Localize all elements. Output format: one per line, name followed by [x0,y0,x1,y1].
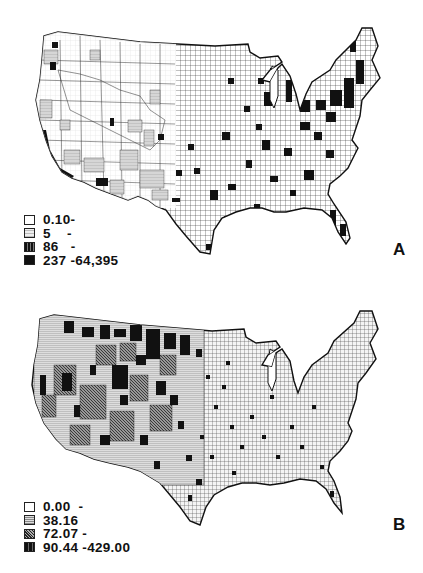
panel-label-a: A [393,240,405,260]
panel-label-b: B [393,515,405,535]
legend-item: 0.10- [24,213,118,227]
legend-swatch-light-stipple [24,228,35,238]
legend-label: 0.00 - [43,500,83,513]
legend-swatch-black [24,255,35,265]
legend-item: 237 -64,395 [24,254,118,268]
legend-label: 72.07 - [43,527,87,540]
legend-swatch-white [24,215,35,225]
legend-b: 0.00 - 38.16 72.07 - 90.44 -429.00 [24,500,130,554]
legend-swatch-light-hatch [24,515,35,525]
legend-label: 86 - [43,240,76,253]
map-panel-b: 0.00 - 38.16 72.07 - 90.44 -429.00 B [0,285,423,573]
map-panel-a: 0.10- 5 - 86 - 237 -64,395 A [0,0,423,285]
legend-label: 5 - [43,227,72,240]
legend-swatch-dark-hatch [24,242,35,252]
legend-swatch-white [24,502,35,512]
legend-item: 90.44 -429.00 [24,541,130,555]
legend-item: 38.16 [24,514,130,528]
legend-label: 90.44 -429.00 [43,541,130,554]
legend-item: 72.07 - [24,527,130,541]
legend-label: 237 -64,395 [43,254,118,267]
legend-item: 5 - [24,227,118,241]
legend-a: 0.10- 5 - 86 - 237 -64,395 [24,213,118,267]
legend-swatch-dark-stipple [24,529,35,539]
legend-swatch-black-hatch [24,542,35,552]
legend-label: 0.10- [43,213,75,226]
legend-label: 38.16 [43,514,78,527]
legend-item: 0.00 - [24,500,130,514]
legend-item: 86 - [24,240,118,254]
